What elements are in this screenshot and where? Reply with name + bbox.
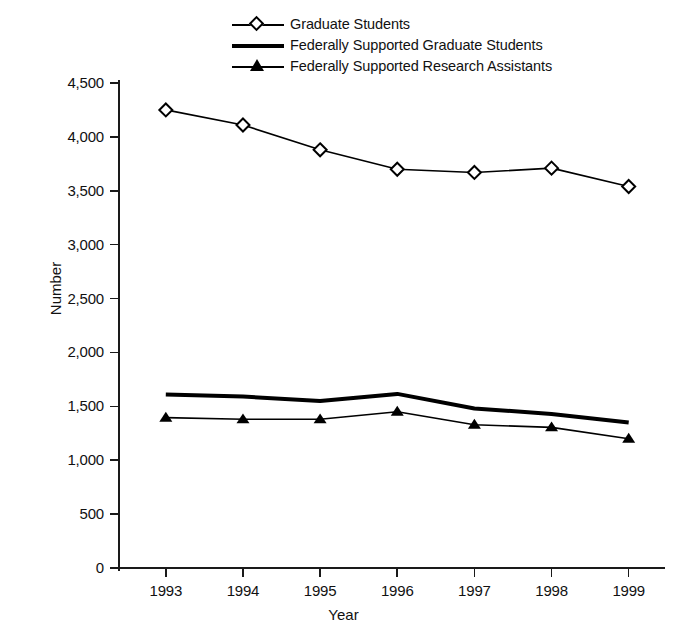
legend-key-thick-line (228, 35, 290, 56)
y-axis-tick (110, 406, 119, 408)
y-axis-line (118, 80, 120, 571)
data-point-marker (545, 162, 558, 175)
legend-label: Federally Supported Research Assistants (290, 56, 552, 77)
y-axis-tick-label: 4,500 (44, 75, 104, 90)
data-point-marker (159, 412, 172, 422)
x-axis-title: Year (0, 606, 687, 623)
data-point-marker (236, 119, 249, 132)
y-axis-tick-label: 1,500 (44, 398, 104, 413)
series-line (166, 412, 629, 439)
legend-item-federally-supported-graduate-students: Federally Supported Graduate Students (228, 35, 658, 56)
data-point-marker (236, 413, 249, 423)
y-axis-tick (110, 244, 119, 246)
x-axis-tick-label: 1998 (517, 582, 587, 600)
y-axis-tick-label: 1,000 (44, 452, 104, 467)
y-axis-title-wrap: Number (0, 280, 116, 298)
data-point-marker (314, 143, 327, 156)
x-axis-tick (319, 568, 321, 577)
x-axis-tick-label: 1997 (439, 582, 509, 600)
legend-label: Graduate Students (290, 14, 410, 35)
data-point-marker (468, 419, 481, 429)
x-axis-tick (551, 568, 553, 577)
data-point-marker (159, 103, 172, 116)
data-point-marker (314, 413, 327, 423)
x-axis-tick-label: 1999 (594, 582, 664, 600)
y-axis-tick (110, 513, 119, 515)
thick-line-segment-icon (232, 44, 284, 48)
y-axis-tick-label: 0 (44, 560, 104, 575)
filled-triangle-marker-icon (250, 59, 264, 71)
y-axis-tick-label: 4,000 (44, 129, 104, 144)
y-axis-tick-label: 500 (44, 506, 104, 521)
x-axis-line (117, 567, 665, 569)
y-axis-tick (110, 352, 119, 354)
data-point-marker (622, 433, 635, 443)
y-axis-tick (110, 190, 119, 192)
data-point-marker (391, 163, 404, 176)
legend-key-triangle-line (228, 56, 290, 77)
y-axis-tick-label: 3,000 (44, 237, 104, 252)
data-point-marker (391, 406, 404, 416)
y-axis-tick (110, 82, 119, 84)
y-axis-tick (110, 136, 119, 138)
legend-item-graduate-students: Graduate Students (228, 14, 658, 35)
x-axis-tick (165, 568, 167, 577)
y-axis-title: Number (47, 262, 64, 315)
x-axis-tick (396, 568, 398, 577)
y-axis-tick (110, 567, 119, 569)
data-point-marker (622, 180, 635, 193)
chart-legend: Graduate Students Federally Supported Gr… (228, 14, 658, 77)
series-line (166, 110, 629, 187)
series-layer (0, 0, 687, 639)
x-axis-tick (474, 568, 476, 577)
x-axis-tick (242, 568, 244, 577)
y-axis-tick-label: 3,500 (44, 183, 104, 198)
x-axis-tick-label: 1996 (362, 582, 432, 600)
chart-container: Graduate Students Federally Supported Gr… (0, 0, 687, 639)
x-axis-tick-label: 1993 (131, 582, 201, 600)
y-axis-tick (110, 459, 119, 461)
open-diamond-marker-icon (249, 16, 265, 32)
data-point-marker (468, 166, 481, 179)
y-axis-tick-label: 2,000 (44, 344, 104, 359)
x-axis-tick-label: 1995 (285, 582, 355, 600)
x-axis-tick-label: 1994 (208, 582, 278, 600)
legend-item-federally-supported-research-assistants: Federally Supported Research Assistants (228, 56, 658, 77)
x-axis-tick (628, 568, 630, 577)
data-point-marker (545, 421, 558, 431)
legend-label: Federally Supported Graduate Students (290, 35, 543, 56)
series-line (166, 394, 629, 423)
legend-key-diamond-line (228, 14, 290, 35)
